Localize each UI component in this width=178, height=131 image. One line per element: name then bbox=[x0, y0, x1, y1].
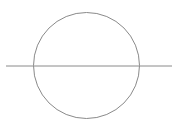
diagram-canvas bbox=[0, 0, 178, 131]
figure-drawing bbox=[0, 0, 178, 131]
